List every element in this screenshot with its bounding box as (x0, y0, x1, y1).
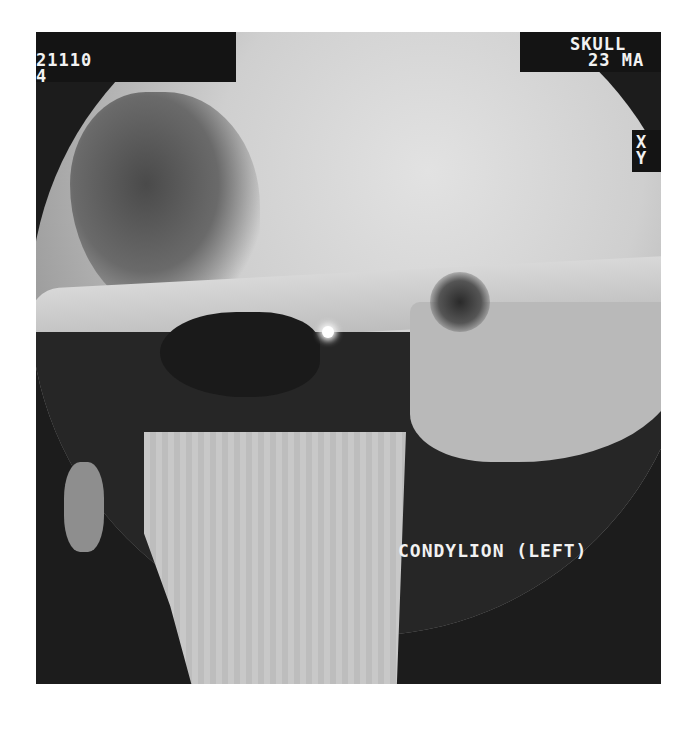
scan-date: 23 MA (588, 52, 644, 69)
ear-canal-shadow (430, 272, 490, 332)
axis-y-label: Y (636, 150, 647, 167)
mandibular-ramus (144, 432, 406, 684)
series-number: 4 (36, 68, 47, 85)
coronoid-edge (64, 462, 104, 552)
landmark-marker (322, 326, 334, 338)
landmark-label: CONDYLION (LEFT) (398, 542, 587, 559)
ct-render-frame (36, 32, 661, 684)
